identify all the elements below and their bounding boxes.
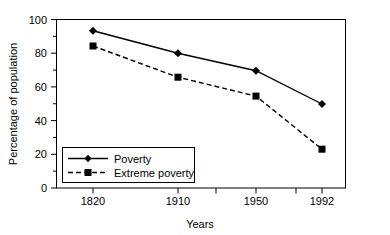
legend-marker-square-icon	[85, 169, 92, 176]
y-tick-label-80: 80	[35, 47, 47, 59]
x-tick-label-1950: 1950	[244, 195, 268, 207]
y-tick-label-0: 0	[41, 182, 47, 194]
x-axis-title: Years	[186, 218, 214, 230]
chart-figure: 100 80 60 40 20 0 1820 1910 1950 1992 Ye…	[0, 0, 390, 235]
x-axis-major-ticks	[93, 188, 322, 194]
series-extreme-poverty-markers	[90, 43, 326, 153]
legend-label-poverty: Poverty	[114, 153, 152, 165]
legend-label-extreme-poverty: Extreme poverty	[114, 167, 195, 179]
chart-legend: Poverty Extreme poverty	[63, 148, 195, 183]
y-axis-title: Percentage of population	[7, 43, 19, 165]
y-tick-label-40: 40	[35, 115, 47, 127]
y-tick-label-100: 100	[29, 14, 47, 26]
y-tick-label-20: 20	[35, 148, 47, 160]
series-extreme-poverty-line	[93, 46, 322, 149]
series-poverty-line	[93, 31, 322, 104]
y-axis-minor-ticks	[53, 36, 57, 171]
y-tick-label-60: 60	[35, 81, 47, 93]
x-tick-label-1992: 1992	[310, 195, 334, 207]
line-chart: 100 80 60 40 20 0 1820 1910 1950 1992 Ye…	[0, 0, 390, 235]
x-tick-label-1910: 1910	[166, 195, 190, 207]
x-tick-label-1820: 1820	[81, 195, 105, 207]
